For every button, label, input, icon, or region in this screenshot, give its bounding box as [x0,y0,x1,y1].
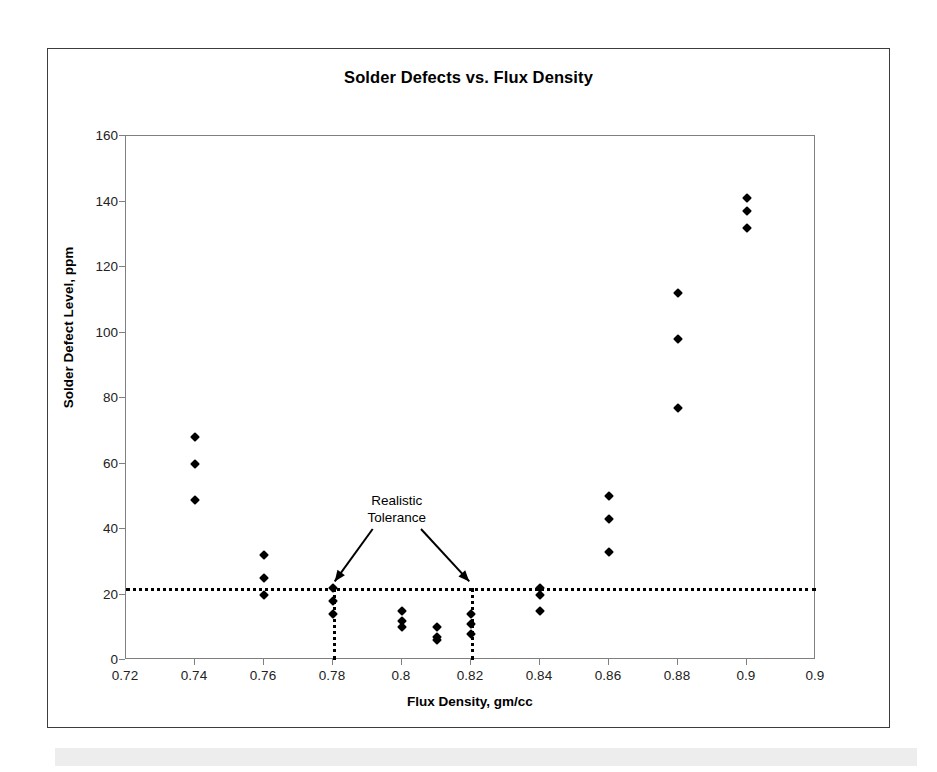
x-tick-mark [263,659,264,665]
realistic-tolerance-annotation-label: RealisticTolerance [368,493,427,526]
x-tick-label: 0.72 [112,668,138,683]
data-point-marker [742,223,752,233]
y-tick-label: 0 [72,652,118,667]
data-point-marker [397,606,407,616]
annotation-line-1: Realistic [368,493,427,509]
x-tick-mark [539,659,540,665]
x-tick-mark [194,659,195,665]
x-axis-tick-labels: 0.720.740.760.780.80.820.840.860.880.90.… [125,668,815,688]
y-tick-label: 80 [72,390,118,405]
x-tick-mark [332,659,333,665]
data-point-marker [259,590,269,600]
data-point-marker [673,403,683,413]
data-point-marker [742,206,752,216]
data-point-marker [604,514,614,524]
annotation-arrows [126,136,816,660]
x-tick-label: 0.76 [250,668,276,683]
data-point-marker [190,459,200,469]
x-tick-mark [470,659,471,665]
y-axis-tick-labels: 020406080100120140160 [70,135,118,659]
data-point-marker [328,583,338,593]
data-point-marker [259,550,269,560]
y-tick-label: 100 [72,324,118,339]
data-point-marker [466,609,476,619]
data-point-marker [673,288,683,298]
y-tick-mark [119,594,125,595]
y-tick-mark [119,659,125,660]
y-tick-label: 140 [72,193,118,208]
annotation-arrow-head [458,570,469,581]
x-tick-mark [401,659,402,665]
page-footer-band [55,748,917,766]
y-tick-mark [119,266,125,267]
data-point-marker [259,573,269,583]
y-tick-mark [119,201,125,202]
plot-inner: RealisticTolerance [126,136,814,658]
annotation-arrow-line [421,529,469,581]
data-point-marker [535,606,545,616]
data-point-marker [328,596,338,606]
x-tick-label: 0.8 [392,668,411,683]
y-tick-label: 60 [72,455,118,470]
x-tick-mark [608,659,609,665]
y-tick-mark [119,397,125,398]
x-tick-label: 0.74 [181,668,207,683]
x-axis-title: Flux Density, gm/cc [125,694,815,709]
data-point-marker [328,609,338,619]
x-tick-mark [677,659,678,665]
data-point-marker [190,432,200,442]
annotation-arrow-head [335,570,345,582]
y-tick-label: 160 [72,128,118,143]
data-point-marker [466,619,476,629]
data-point-marker [742,193,752,203]
x-tick-label: 0.86 [595,668,621,683]
y-tick-mark [119,463,125,464]
data-point-marker [604,491,614,501]
x-tick-label: 0.9 [737,668,756,683]
data-point-marker [535,590,545,600]
data-point-marker [604,547,614,557]
data-point-marker [190,495,200,505]
y-tick-mark [119,332,125,333]
x-tick-label: 0.78 [319,668,345,683]
data-point-marker [466,629,476,639]
x-tick-label: 0.9 [806,668,825,683]
data-point-marker [432,622,442,632]
plot-area: RealisticTolerance [125,135,815,659]
y-tick-mark [119,528,125,529]
y-tick-mark [119,135,125,136]
annotation-arrow-line [335,529,373,581]
chart-title: Solder Defects vs. Flux Density [0,68,937,87]
data-point-marker [673,334,683,344]
x-tick-mark [746,659,747,665]
x-tick-label: 0.84 [526,668,552,683]
y-tick-label: 120 [72,259,118,274]
y-tick-label: 40 [72,521,118,536]
annotation-line-2: Tolerance [368,509,427,525]
x-tick-label: 0.82 [457,668,483,683]
data-point-marker [397,622,407,632]
y-tick-label: 20 [72,586,118,601]
x-tick-label: 0.88 [664,668,690,683]
